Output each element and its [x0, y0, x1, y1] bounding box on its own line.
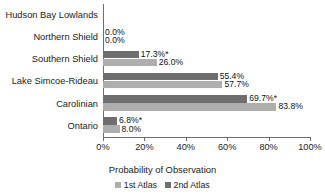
chart-legend: 1st Atlas2nd Atlas [0, 180, 325, 190]
x-tick-label: 40% [177, 142, 195, 153]
x-axis-title: Probability of Observation [0, 164, 325, 175]
chart-row: Lake Simcoe-Rideau55.4%57.7% [0, 70, 325, 92]
legend-label: 2nd Atlas [174, 180, 210, 190]
bar-value-label: 0.0% [105, 36, 125, 44]
x-tick-label: 60% [218, 142, 236, 153]
category-label: Hudson Bay Lowlands [5, 4, 98, 26]
bar-1st-atlas [103, 103, 276, 110]
bar-1st-atlas [103, 59, 157, 66]
legend-swatch-icon [165, 182, 171, 188]
category-label: Southern Shield [32, 48, 98, 70]
chart-row: Ontario6.8%*8.0% [0, 115, 325, 137]
bar-value-label: 57.7% [224, 80, 248, 88]
x-axis-tick-labels: 0%20%40%60%80%100% [0, 142, 325, 154]
bar-value-label: 8.0% [122, 125, 142, 133]
x-tick-label: 0% [96, 142, 109, 153]
category-label: Northern Shield [33, 26, 98, 48]
row-bars: 6.8%*8.0% [103, 115, 310, 137]
chart-row: Southern Shield17.3%*26.0% [0, 48, 325, 70]
bar-2nd-atlas [103, 73, 218, 80]
legend-label: 1st Atlas [124, 180, 157, 190]
x-tick-mark [310, 137, 311, 141]
legend-swatch-icon [115, 182, 121, 188]
x-tick-label: 80% [259, 142, 277, 153]
legend-item: 2nd Atlas [165, 180, 210, 190]
category-label: Carolinian [56, 93, 98, 115]
x-tick-mark [144, 137, 145, 141]
x-axis-ticks [103, 137, 310, 141]
x-tick-mark [186, 137, 187, 141]
row-bars: 69.7%*83.8% [103, 93, 310, 115]
bar-2nd-atlas [103, 51, 139, 58]
bar-value-label: 83.8% [278, 102, 302, 110]
bar-1st-atlas [103, 81, 222, 88]
x-tick-label: 100% [298, 142, 322, 153]
chart-row: Carolinian69.7%*83.8% [0, 93, 325, 115]
bar-2nd-atlas [103, 95, 247, 102]
x-tick-mark [103, 137, 104, 141]
bar-1st-atlas [103, 125, 120, 132]
horizontal-bar-chart: Hudson Bay LowlandsNorthern Shield0.0%0.… [0, 0, 325, 194]
x-tick-label: 20% [135, 142, 153, 153]
row-bars [103, 4, 310, 26]
bar-2nd-atlas [103, 117, 117, 124]
x-tick-mark [269, 137, 270, 141]
chart-row: Northern Shield0.0%0.0% [0, 26, 325, 48]
category-rows: Hudson Bay LowlandsNorthern Shield0.0%0.… [0, 4, 325, 137]
row-bars: 0.0%0.0% [103, 26, 310, 48]
category-label: Lake Simcoe-Rideau [12, 70, 98, 92]
chart-row: Hudson Bay Lowlands [0, 4, 325, 26]
bar-value-label: 26.0% [159, 58, 183, 66]
category-label: Ontario [68, 115, 99, 137]
x-tick-mark [227, 137, 228, 141]
row-bars: 55.4%57.7% [103, 70, 310, 92]
bar-value-label: 69.7%* [249, 94, 277, 102]
legend-item: 1st Atlas [115, 180, 157, 190]
row-bars: 17.3%*26.0% [103, 48, 310, 70]
